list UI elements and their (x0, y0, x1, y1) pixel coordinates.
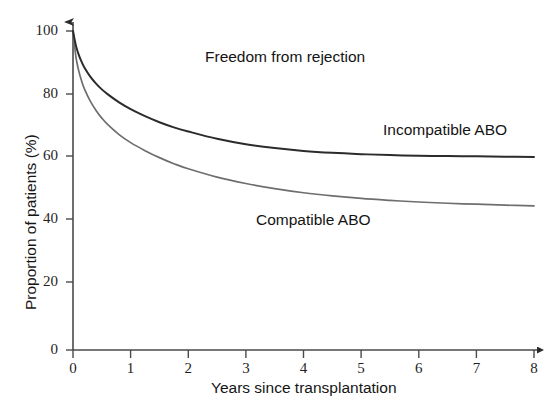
y-axis-ticks (66, 31, 73, 350)
annotation-headline: Freedom from rejection (205, 48, 365, 66)
annotation-series-incompatible: Incompatible ABO (383, 121, 507, 139)
x-axis-ticks (73, 350, 534, 358)
y-tick-label-100: 100 (20, 22, 58, 39)
x-tick-label-7: 7 (461, 360, 491, 377)
x-axis-title: Years since transplantation (211, 379, 397, 397)
x-tick-label-1: 1 (116, 360, 146, 377)
x-tick-label-5: 5 (346, 360, 376, 377)
survival-curve-figure: 100 80 60 40 20 0 0 1 2 3 4 5 6 7 8 Prop… (0, 0, 554, 403)
x-tick-label-2: 2 (173, 360, 203, 377)
x-tick-label-0: 0 (58, 360, 88, 377)
x-tick-label-3: 3 (231, 360, 261, 377)
y-tick-label-0: 0 (20, 341, 58, 358)
y-tick-label-80: 80 (20, 85, 58, 102)
x-tick-label-8: 8 (519, 360, 549, 377)
y-axis-title: Proportion of patients (%) (22, 134, 40, 310)
x-tick-label-6: 6 (404, 360, 434, 377)
x-tick-label-4: 4 (289, 360, 319, 377)
annotation-series-compatible: Compatible ABO (256, 211, 371, 229)
